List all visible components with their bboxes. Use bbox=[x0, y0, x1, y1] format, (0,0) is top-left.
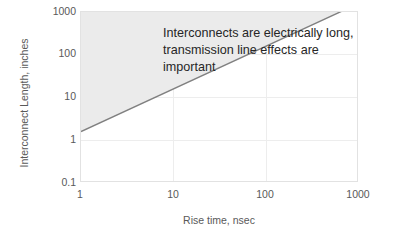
x-axis-title: Rise time, nsec bbox=[80, 214, 358, 226]
electrically-long-region bbox=[81, 12, 358, 132]
plot-svg bbox=[81, 12, 358, 182]
y-axis-title: Interconnect Length, inches bbox=[16, 10, 32, 196]
y-tick-label-1000: 1000 bbox=[30, 5, 76, 17]
y-tick-label-100: 100 bbox=[30, 47, 76, 59]
x-tick-label-1: 1 bbox=[60, 188, 100, 200]
y-tick-label-10: 10 bbox=[30, 90, 76, 102]
x-tick-label-100: 100 bbox=[245, 188, 285, 200]
y-tick-label-0.1: 0.1 bbox=[30, 176, 76, 188]
x-tick-label-10: 10 bbox=[153, 188, 193, 200]
x-tick-label-1000: 1000 bbox=[338, 188, 378, 200]
y-tick-label-1: 1 bbox=[30, 133, 76, 145]
chart-figure: Interconnect Length, inches 1000 100 10 … bbox=[0, 0, 398, 237]
plot-area: Interconnects are electrically long, tra… bbox=[80, 11, 358, 182]
